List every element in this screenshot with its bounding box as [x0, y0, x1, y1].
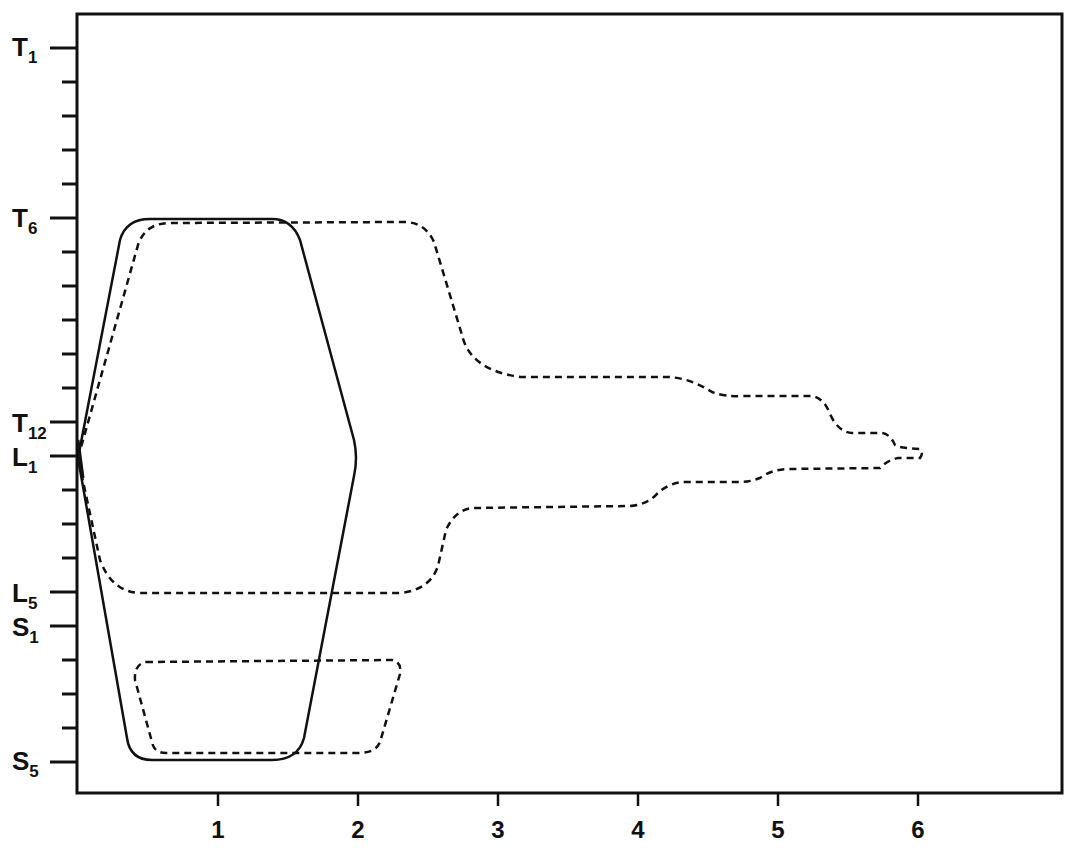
y-label-s1: S1 [12, 612, 39, 647]
x-label-4: 4 [631, 816, 645, 843]
series-dashed-envelope-sacral [135, 660, 400, 753]
x-axis-labels: 1 2 3 4 5 6 [211, 816, 924, 843]
x-label-3: 3 [491, 816, 504, 843]
y-label-t6: T6 [12, 203, 37, 238]
series-dashed-envelope-lumbar [78, 222, 922, 593]
y-label-l5: L5 [12, 578, 37, 613]
y-axis-labels: T1 T6 T12 L1 L5 S1 S5 [12, 32, 47, 781]
y-label-t1: T1 [12, 32, 37, 67]
series-solid-envelope [78, 219, 356, 760]
x-label-6: 6 [911, 816, 924, 843]
x-label-1: 1 [211, 816, 224, 843]
y-label-t12: T12 [12, 408, 47, 443]
y-label-l1: L1 [12, 442, 37, 477]
x-label-5: 5 [771, 816, 784, 843]
x-label-2: 2 [351, 816, 364, 843]
y-axis-ticks [50, 48, 77, 762]
chart: T1 T6 T12 L1 L5 S1 S5 1 2 3 4 5 6 [0, 0, 1068, 848]
x-axis-ticks [218, 793, 918, 806]
y-label-s5: S5 [12, 746, 39, 781]
plot-frame [77, 14, 1062, 793]
